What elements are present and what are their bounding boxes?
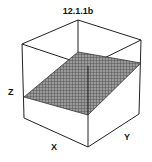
y-axis-label: Y [124, 132, 130, 142]
box-bottom [24, 114, 139, 147]
box-edge [139, 40, 141, 114]
surface-plane [24, 52, 141, 115]
chart-title: 12.1.1b [2, 6, 152, 16]
x-axis-label: X [51, 142, 57, 152]
surface-plot: 12.1.1b Z X Y [0, 0, 152, 162]
z-axis-label: Z [8, 87, 14, 97]
box-edge [22, 44, 24, 118]
